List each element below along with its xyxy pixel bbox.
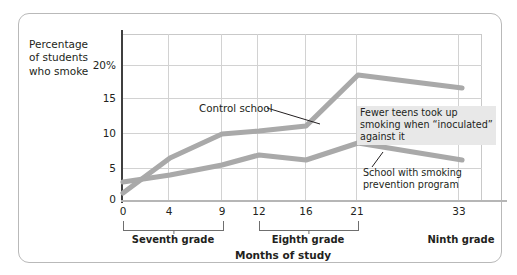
y-tick-20: 20% — [70, 59, 116, 71]
grade-label-eighth: Eighth grade — [272, 234, 345, 245]
y-tick-0: 0 — [70, 193, 116, 205]
y-tick-labels: 20% 15 10 5 0 — [66, 0, 116, 275]
x-tick-33: 33 — [452, 205, 465, 217]
x-tick-4: 4 — [166, 205, 173, 217]
y-axis-line — [121, 30, 123, 203]
bracket-eighth-grade — [259, 221, 359, 231]
y-tick-5: 5 — [70, 162, 116, 174]
x-tick-21: 21 — [350, 205, 363, 217]
x-tick-16: 16 — [299, 205, 312, 217]
grade-label-ninth: Ninth grade — [427, 234, 494, 245]
y-tick-10: 10 — [70, 127, 116, 139]
x-axis-line — [121, 200, 507, 202]
gridline-vertical-4 — [168, 34, 169, 200]
gridline-horizontal-20 — [122, 65, 482, 66]
chart-figure: Percentage of students who smoke 20% 15 … — [0, 0, 517, 275]
grade-label-seventh: Seventh grade — [132, 234, 215, 245]
bracket-seventh-grade — [123, 221, 224, 231]
y-tick-15: 15 — [70, 92, 116, 104]
annotation-inoculated-note: Fewer teens took up smoking when “inocul… — [357, 106, 496, 145]
gridline-vertical-12 — [257, 34, 258, 200]
x-tick-12: 12 — [252, 205, 265, 217]
gridline-horizontal-15 — [122, 98, 482, 99]
annotation-prevention-program: School with smoking prevention program — [363, 167, 462, 191]
x-tick-0: 0 — [120, 205, 127, 217]
x-axis-title: Months of study — [235, 249, 331, 261]
gridline-vertical-9 — [221, 34, 222, 200]
x-tick-9: 9 — [219, 205, 226, 217]
gridline-vertical-16 — [305, 34, 306, 200]
annotation-control-school: Control school — [199, 102, 273, 114]
